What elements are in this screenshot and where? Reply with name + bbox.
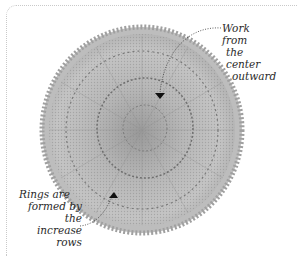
annotation-line: formed by the	[10, 200, 82, 224]
annotation-line: Work from	[222, 22, 278, 46]
annotation-line: Rings are	[10, 188, 82, 200]
annotation-center-outward: Work from the center outward	[222, 22, 278, 82]
annotation-line: the center	[222, 46, 278, 70]
annotation-line: outward	[222, 70, 278, 82]
annotation-line: increase rows	[10, 224, 82, 248]
annotation-rings-increase: Rings are formed by the increase rows	[10, 188, 82, 248]
